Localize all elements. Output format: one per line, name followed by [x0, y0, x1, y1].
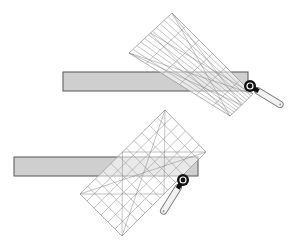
- cutter-hub: [248, 84, 253, 89]
- ruler-outline: [129, 13, 253, 116]
- cutter-handle: [253, 86, 285, 109]
- cutter-hub: [181, 178, 186, 183]
- figure-bottom: [14, 110, 206, 236]
- quilting-ruler: [129, 13, 253, 116]
- figure-top: [63, 13, 284, 116]
- diagram-canvas: [0, 0, 299, 242]
- rotary-cutting-diagram: [0, 0, 299, 242]
